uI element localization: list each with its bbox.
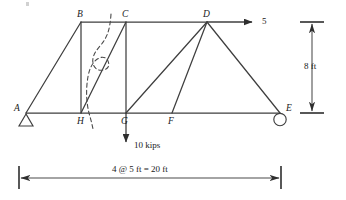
joint-label-E: E [286, 104, 292, 114]
member-vertical-D-F [172, 22, 207, 113]
truss-drawing-canvas [0, 0, 346, 200]
dimension-label-height: 8 ft [304, 62, 316, 71]
truss-members [26, 22, 280, 113]
member-diagonal-G-D [126, 22, 207, 113]
joint-label-C: C [122, 10, 128, 20]
joint-label-B: B [77, 10, 83, 20]
load-label-horizontal-5: 5 [262, 17, 267, 26]
support-roller-at-E [274, 113, 286, 125]
dimension-label-span: 4 @ 5 ft = 20 ft [112, 165, 168, 174]
section-cut-line [87, 14, 111, 129]
joint-label-D: D [203, 10, 210, 20]
support-pin-at-A [19, 114, 33, 126]
truss-diagram-figure: A H G F E B C D 5 10 kips 8 ft 4 @ 5 ft … [0, 0, 346, 200]
joint-label-H: H [77, 117, 84, 127]
load-label-vertical-10-kips: 10 kips [134, 141, 160, 150]
joint-label-F: F [168, 117, 174, 127]
joint-label-A: A [14, 104, 20, 114]
joint-label-G: G [121, 117, 128, 127]
member-diagonal-H-C [81, 22, 126, 113]
member-diagonal-D-E [207, 22, 280, 113]
member-diagonal-A-B [26, 22, 81, 113]
